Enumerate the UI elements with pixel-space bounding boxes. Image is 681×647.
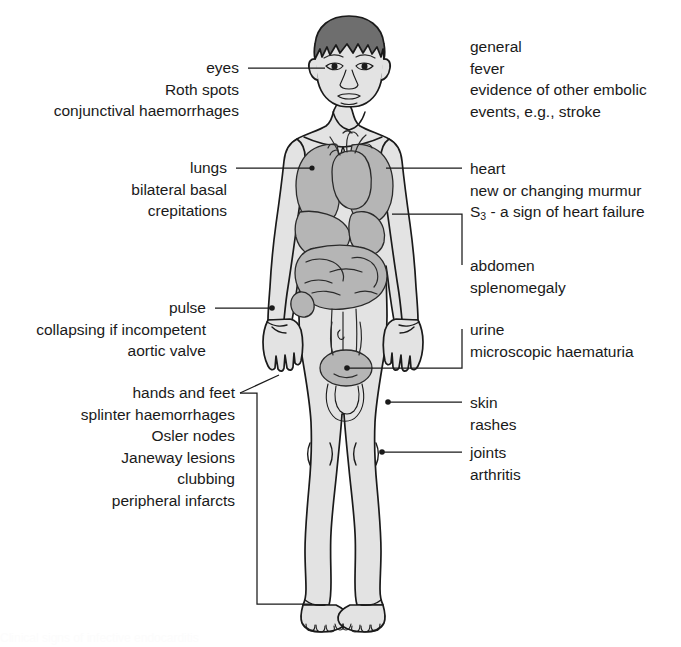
heart-shape bbox=[332, 151, 371, 209]
label-pulse-line-2: aortic valve bbox=[36, 340, 206, 362]
label-heart-s3: S3 - a sign of heart failure bbox=[470, 201, 645, 228]
label-hands-line-5: peripheral infarcts bbox=[81, 490, 235, 512]
hand-right bbox=[384, 319, 424, 371]
label-hands-line-4: clubbing bbox=[81, 468, 235, 490]
label-general-line-3: events, e.g., stroke bbox=[470, 101, 647, 123]
label-heart-heading: heart bbox=[470, 158, 645, 180]
label-hands-line-1: splinter haemorrhages bbox=[81, 404, 235, 426]
label-eyes-heading: eyes bbox=[54, 57, 239, 79]
label-abdomen-line-1: splenomegaly bbox=[470, 277, 566, 299]
label-eyes-line-1: Roth spots bbox=[54, 79, 239, 101]
label-general-line-2: evidence of other embolic bbox=[470, 79, 647, 101]
leader-joints-dot bbox=[379, 449, 385, 455]
leader-pulse-dot bbox=[269, 305, 275, 311]
label-hands-and-feet: hands and feet splinter haemorrhages Osl… bbox=[81, 382, 235, 511]
label-skin-line-1: rashes bbox=[470, 414, 517, 436]
eye-right-pupil bbox=[362, 63, 368, 69]
label-hands-line-2: Osler nodes bbox=[81, 425, 235, 447]
label-lungs-heading: lungs bbox=[131, 157, 227, 179]
label-abdomen: abdomen splenomegaly bbox=[470, 255, 566, 298]
knee-left-outer bbox=[308, 443, 310, 465]
knee-right-inner bbox=[376, 443, 378, 465]
label-lungs-line-1: bilateral basal bbox=[131, 179, 227, 201]
label-eyes-line-2: conjunctival haemorrhages bbox=[54, 100, 239, 122]
label-heart-s3-prefix: S bbox=[470, 203, 480, 220]
leader-lungs-dot bbox=[309, 165, 314, 170]
label-heart-s3-suffix: - a sign of heart failure bbox=[486, 203, 645, 220]
leader-skin-dot bbox=[385, 399, 391, 405]
label-heart-murmur: new or changing murmur bbox=[470, 180, 645, 202]
figure-caption-clipped: Clinical signs of infective endocarditis bbox=[0, 631, 681, 647]
label-urine-heading: urine bbox=[470, 319, 634, 341]
label-urine-line-1: microscopic haematuria bbox=[470, 341, 634, 363]
label-lungs-line-2: crepitations bbox=[131, 200, 227, 222]
label-abdomen-heading: abdomen bbox=[470, 255, 566, 277]
label-skin-heading: skin bbox=[470, 392, 517, 414]
eye-left-pupil bbox=[332, 63, 338, 69]
hand-left bbox=[263, 319, 303, 371]
label-general-line-1: fever bbox=[470, 58, 647, 80]
label-pulse: pulse collapsing if incompetent aortic v… bbox=[36, 297, 206, 362]
leader-hands-and-feet bbox=[240, 393, 312, 604]
label-pulse-heading: pulse bbox=[36, 297, 206, 319]
label-heart: heart new or changing murmur S3 - a sign… bbox=[470, 158, 645, 228]
leader-hands-diagonal bbox=[240, 375, 279, 393]
leader-urine-dot bbox=[344, 365, 350, 371]
label-joints-line-1: arthritis bbox=[470, 464, 521, 486]
label-joints: joints arthritis bbox=[470, 442, 521, 485]
label-general: general fever evidence of other embolic … bbox=[470, 36, 647, 122]
label-pulse-line-1: collapsing if incompetent bbox=[36, 319, 206, 341]
left-lower-organ bbox=[291, 292, 314, 317]
label-hands-line-3: Janeway lesions bbox=[81, 447, 235, 469]
label-hands-heading: hands and feet bbox=[81, 382, 235, 404]
label-eyes: eyes Roth spots conjunctival haemorrhage… bbox=[54, 57, 239, 122]
label-urine: urine microscopic haematuria bbox=[470, 319, 634, 362]
label-lungs: lungs bilateral basal crepitations bbox=[131, 157, 227, 222]
body-figure bbox=[263, 16, 423, 632]
label-general-heading: general bbox=[470, 36, 647, 58]
label-skin: skin rashes bbox=[470, 392, 517, 435]
label-joints-heading: joints bbox=[470, 442, 521, 464]
